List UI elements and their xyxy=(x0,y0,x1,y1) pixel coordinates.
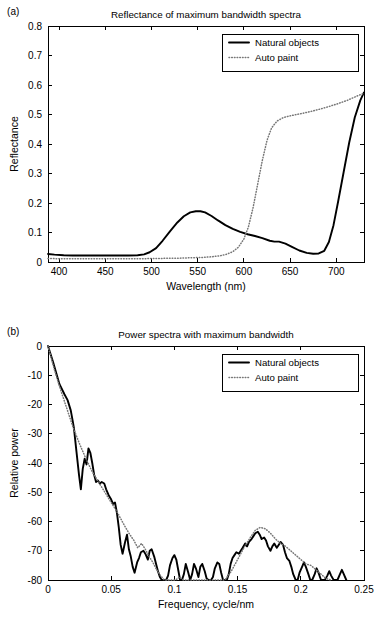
y-tick-label: -60 xyxy=(28,516,43,527)
y-tick-label: -20 xyxy=(28,399,43,410)
series-dotted xyxy=(48,93,364,258)
y-tick-label: 0.3 xyxy=(28,168,42,179)
y-tick-label: -50 xyxy=(28,487,43,498)
chart-title: Reflectance of maximum bandwidth spectra xyxy=(111,9,302,20)
panel-a-label: (a) xyxy=(7,6,20,17)
legend-label: Natural objects xyxy=(255,357,319,368)
x-tick-label: 400 xyxy=(51,266,68,277)
reflectance-chart: Reflectance of maximum bandwidth spectra… xyxy=(0,0,381,312)
x-tick-label: 450 xyxy=(97,266,114,277)
y-tick-label: -70 xyxy=(28,545,43,556)
y-tick-label: 0.6 xyxy=(28,80,42,91)
y-tick-label: 0.5 xyxy=(28,109,42,120)
series-solid xyxy=(48,92,364,255)
y-tick-label: -80 xyxy=(28,575,43,586)
x-tick-label: 0.15 xyxy=(228,584,248,595)
legend-label: Auto paint xyxy=(255,372,299,383)
x-tick-label: 700 xyxy=(328,266,345,277)
y-axis-title: Relative power xyxy=(8,428,20,498)
y-axis-title: Reflectance xyxy=(8,116,20,172)
y-tick-label: -30 xyxy=(28,428,43,439)
y-tick-label: 0.7 xyxy=(28,50,42,61)
y-tick-label: 0.8 xyxy=(28,21,42,32)
x-axis-title: Frequency, cycle/nm xyxy=(158,598,254,610)
chart-title: Power spectra with maximum bandwidth xyxy=(118,329,293,340)
y-tick-label: -10 xyxy=(28,370,43,381)
y-tick-label: 0.2 xyxy=(28,198,42,209)
x-axis-title: Wavelength (nm) xyxy=(166,280,246,292)
x-tick-label: 500 xyxy=(143,266,160,277)
x-tick-label: 0.25 xyxy=(354,584,374,595)
x-tick-label: 0.1 xyxy=(167,584,181,595)
y-tick-label: 0 xyxy=(36,257,42,268)
x-tick-label: 0.05 xyxy=(101,584,121,595)
x-tick-label: 600 xyxy=(236,266,253,277)
panel-a: (a) Reflectance of maximum bandwidth spe… xyxy=(0,0,381,312)
power-spectra-chart: Power spectra with maximum bandwidth00.0… xyxy=(0,318,381,636)
panel-b: (b) Power spectra with maximum bandwidth… xyxy=(0,318,381,636)
y-tick-label: 0.1 xyxy=(28,227,42,238)
panel-b-label: (b) xyxy=(7,326,20,337)
legend-label: Auto paint xyxy=(255,52,299,63)
x-tick-label: 0 xyxy=(45,584,51,595)
x-tick-label: 0.2 xyxy=(294,584,308,595)
y-tick-label: 0.4 xyxy=(28,139,42,150)
y-tick-label: 0 xyxy=(36,341,42,352)
figure-container: (a) Reflectance of maximum bandwidth spe… xyxy=(0,0,381,636)
x-tick-label: 650 xyxy=(282,266,299,277)
legend-label: Natural objects xyxy=(255,37,319,48)
x-tick-label: 550 xyxy=(189,266,206,277)
y-tick-label: -40 xyxy=(28,458,43,469)
